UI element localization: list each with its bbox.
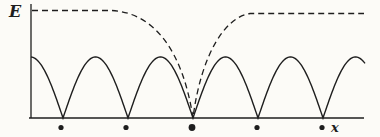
lattice-dot xyxy=(254,125,259,130)
solid-energy-curve xyxy=(31,57,365,118)
lattice-dot xyxy=(189,124,196,131)
y-axis-label: E xyxy=(9,4,21,20)
x-axis-label: x xyxy=(331,121,339,134)
lattice-dot xyxy=(123,125,128,130)
lattice-dot xyxy=(319,125,324,130)
energy-band-figure-svg xyxy=(0,0,380,137)
figure: E x xyxy=(0,0,380,137)
lattice-dot xyxy=(58,125,63,130)
